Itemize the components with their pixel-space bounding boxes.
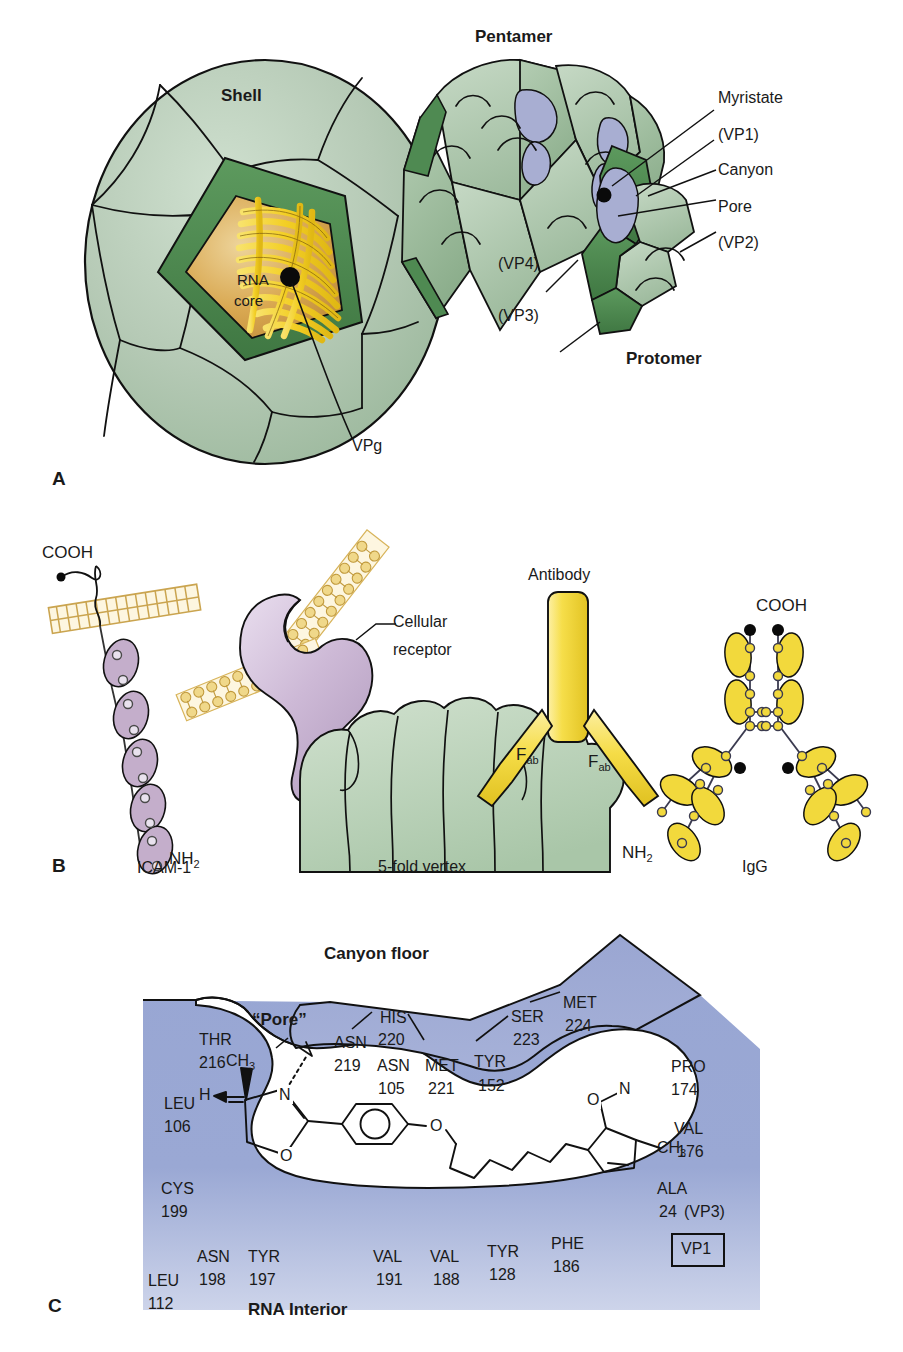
- panel-a-graphic: [85, 60, 716, 464]
- label-cellular-receptor-line2: receptor: [393, 641, 452, 659]
- residue-leu112-number: 112: [148, 1295, 174, 1313]
- residue-asn105-name: ASN: [377, 1057, 410, 1075]
- residue-thr216-name: THR: [199, 1031, 232, 1049]
- residue-cys199-name: CYS: [161, 1180, 194, 1198]
- label-five-fold-vertex: 5-fold vertex: [378, 858, 466, 876]
- label-vpg: VPg: [352, 437, 382, 455]
- residue-phe186-name: PHE: [551, 1235, 584, 1253]
- residue-val191-name: VAL: [373, 1248, 402, 1266]
- atom-label-ether-oxygen: O: [428, 1117, 444, 1135]
- panel-a-letter: A: [52, 468, 66, 490]
- panel-b-graphic: [48, 530, 872, 877]
- cooh-terminus-dot-left: [57, 573, 66, 582]
- label-canyon-floor: Canyon floor: [324, 944, 429, 964]
- residue-ala24-name: ALA: [657, 1180, 687, 1198]
- residue-val176-name: VAL: [674, 1120, 703, 1138]
- label-pore: Pore: [718, 198, 752, 216]
- residue-tyr197-number: 197: [249, 1271, 276, 1289]
- residue-ser223-number: 223: [513, 1031, 540, 1049]
- residue-asn198-number: 198: [199, 1271, 226, 1289]
- panel-c-letter: C: [48, 1295, 62, 1317]
- membrane-left: [48, 584, 200, 633]
- label-vp2: (VP2): [718, 234, 759, 252]
- residue-tyr197-name: TYR: [248, 1248, 280, 1266]
- residue-met224-number: 224: [565, 1017, 592, 1035]
- label-shell: Shell: [221, 86, 262, 106]
- label-igg: IgG: [742, 858, 768, 876]
- label-vp4: (VP4): [498, 255, 539, 273]
- label-fab-right: Fab: [588, 752, 611, 773]
- label-vp1: (VP1): [718, 126, 759, 144]
- residue-asn105-number: 105: [378, 1080, 405, 1098]
- atom-label-methyl-left: CH3: [226, 1052, 255, 1072]
- atom-label-hydrogen: H: [199, 1086, 211, 1104]
- label-pore: “Pore”: [252, 1010, 307, 1030]
- label-nh2-right: NH2: [622, 843, 653, 864]
- icam1-chain: [99, 626, 178, 877]
- label-rna-core-line1: RNA: [237, 271, 269, 288]
- receptor-leader-line: [356, 624, 396, 640]
- residue-ser223-name: SER: [511, 1008, 544, 1026]
- residue-met221-number: 221: [428, 1080, 455, 1098]
- label-rna-core-line2: core: [234, 292, 263, 309]
- atom-label-methyl-right: CH3: [657, 1139, 686, 1159]
- label-vp3: (VP3): [498, 307, 539, 325]
- residue-his220-name: HIS: [380, 1009, 407, 1027]
- label-cellular-receptor-line1: Cellular: [393, 613, 447, 631]
- label-pentamer: Pentamer: [475, 27, 552, 47]
- residue-leu112-name: LEU: [148, 1272, 179, 1290]
- myristate-dot: [597, 188, 612, 203]
- residue-thr216-number: 216: [199, 1054, 226, 1072]
- residue-phe186-number: 186: [553, 1258, 580, 1276]
- atom-label-nitrogen-oxazoline: N: [277, 1086, 293, 1104]
- residue-val188-number: 188: [433, 1271, 460, 1289]
- atom-label-isoxazole-nitrogen: N: [617, 1080, 633, 1098]
- residue-val188-name: VAL: [430, 1248, 459, 1266]
- virion-shell: [85, 60, 445, 464]
- residue-ala24-number: 24: [659, 1203, 677, 1221]
- igg-chain-nodes: [658, 644, 871, 848]
- label-vp1-box: VP1: [681, 1240, 711, 1258]
- residue-val191-number: 191: [376, 1271, 403, 1289]
- residue-tyr152-number: 152: [478, 1077, 505, 1095]
- label-fab-left: Fab: [516, 745, 539, 766]
- atom-label-oxygen-oxazoline: O: [278, 1147, 294, 1165]
- antibody-fc-region: [548, 592, 588, 742]
- residue-his220-number: 220: [378, 1031, 405, 1049]
- residue-leu106-number: 106: [164, 1118, 191, 1136]
- label-rna-interior: RNA Interior: [248, 1300, 348, 1320]
- figure-canvas: [0, 0, 903, 1352]
- label-canyon: Canyon: [718, 161, 773, 179]
- residue-met221-name: MET: [425, 1057, 459, 1075]
- residue-tyr128-number: 128: [489, 1266, 516, 1284]
- atom-label-isoxazole-oxygen: O: [585, 1091, 601, 1109]
- label-cooh-left: COOH: [42, 543, 93, 563]
- residue-pro174-number: 174: [671, 1081, 698, 1099]
- residue-tyr128-name: TYR: [487, 1243, 519, 1261]
- igg-molecule: [655, 624, 872, 867]
- residue-met224-name: MET: [563, 994, 597, 1012]
- label-antibody: Antibody: [528, 566, 590, 584]
- residue-asn198-name: ASN: [197, 1248, 230, 1266]
- residue-cys199-number: 199: [161, 1203, 188, 1221]
- label-myristate: Myristate: [718, 89, 783, 107]
- residue-asn219-number: 219: [334, 1057, 361, 1075]
- label-protomer: Protomer: [626, 349, 702, 369]
- residue-asn219-name: ASN: [334, 1034, 367, 1052]
- label-icam1: ICAM-1: [137, 859, 191, 877]
- residue-tyr152-name: TYR: [474, 1053, 506, 1071]
- panel-b-letter: B: [52, 855, 66, 877]
- residue-ala24-chain: (VP3): [684, 1203, 725, 1221]
- vpg-dot: [280, 267, 300, 287]
- residue-leu106-name: LEU: [164, 1095, 195, 1113]
- label-cooh-right: COOH: [756, 596, 807, 616]
- residue-pro174-name: PRO: [671, 1058, 706, 1076]
